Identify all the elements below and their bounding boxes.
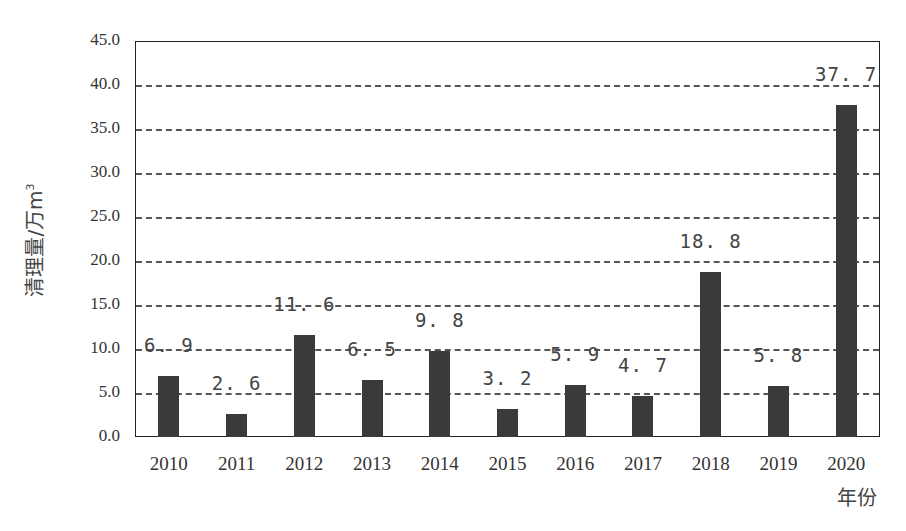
- bar-2013: [362, 380, 383, 437]
- bar-value-label: 6. 9: [129, 334, 209, 356]
- x-axis-title: 年份: [822, 482, 892, 511]
- x-tick-label: 2015: [473, 453, 543, 475]
- bar-value-label: 37. 7: [806, 63, 886, 85]
- bar-2014: [429, 351, 450, 437]
- bar-value-label: 11. 6: [264, 293, 344, 315]
- x-tick-label: 2012: [269, 453, 339, 475]
- y-tick-label: 15.0: [60, 294, 120, 314]
- x-tick-label: 2011: [202, 453, 272, 475]
- x-tick-label: 2014: [405, 453, 475, 475]
- y-tick-label: 45.0: [60, 30, 120, 50]
- bar-2017: [632, 396, 653, 437]
- y-tick-label: 10.0: [60, 338, 120, 358]
- bar-2020: [836, 105, 857, 437]
- bar-2011: [226, 414, 247, 437]
- x-tick-label: 2016: [540, 453, 610, 475]
- bar-2016: [565, 385, 586, 437]
- x-tick-label: 2013: [337, 453, 407, 475]
- y-tick-label: 40.0: [60, 74, 120, 94]
- grid-line: [136, 217, 879, 219]
- bar-2012: [294, 335, 315, 437]
- bar-value-label: 3. 2: [468, 367, 548, 389]
- grid-line: [136, 261, 879, 263]
- y-tick-label: 30.0: [60, 162, 120, 182]
- x-tick-label: 2018: [676, 453, 746, 475]
- bar-chart: 清理量/万m3 年份 0.05.010.015.020.025.030.035.…: [0, 0, 906, 531]
- grid-line: [136, 85, 879, 87]
- bar-value-label: 4. 7: [603, 354, 683, 376]
- y-tick-label: 5.0: [60, 382, 120, 402]
- bar-value-label: 5. 8: [738, 344, 818, 366]
- x-tick-label: 2017: [608, 453, 678, 475]
- y-tick-label: 35.0: [60, 118, 120, 138]
- y-axis-title: 清理量/万m3: [19, 183, 48, 296]
- grid-line: [136, 305, 879, 307]
- bar-2010: [158, 376, 179, 437]
- y-tick-label: 20.0: [60, 250, 120, 270]
- grid-line: [136, 173, 879, 175]
- y-tick-label: 25.0: [60, 206, 120, 226]
- x-tick-label: 2010: [134, 453, 204, 475]
- bar-2019: [768, 386, 789, 437]
- bar-value-label: 6. 5: [332, 338, 412, 360]
- x-tick-label: 2019: [743, 453, 813, 475]
- bar-value-label: 18. 8: [671, 230, 751, 252]
- bar-value-label: 2. 6: [197, 372, 277, 394]
- y-tick-label: 0.0: [60, 426, 120, 446]
- bar-2018: [700, 272, 721, 437]
- grid-line: [136, 129, 879, 131]
- bar-2015: [497, 409, 518, 437]
- x-tick-label: 2020: [811, 453, 881, 475]
- bar-value-label: 9. 8: [400, 309, 480, 331]
